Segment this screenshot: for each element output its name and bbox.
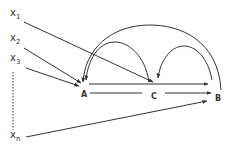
input-xn-subscript: n	[16, 135, 20, 143]
diagram-edges	[0, 0, 233, 150]
edge-xn-to-b	[26, 101, 207, 137]
input-label-xn: xn	[10, 130, 20, 140]
arc-b-to-c	[158, 46, 212, 80]
edge-x1-to-c	[24, 22, 153, 82]
arc-b-to-a	[83, 25, 221, 90]
input-x1-subscript: 1	[16, 13, 20, 21]
input-x3-subscript: 3	[16, 58, 20, 66]
input-label-x2: x2	[10, 33, 20, 43]
diagram-canvas: x1 x2 x3 xn A C B	[0, 0, 233, 150]
node-b: B	[215, 95, 221, 103]
edge-x2-to-a	[24, 48, 81, 83]
input-x2-subscript: 2	[16, 38, 20, 46]
input-label-x3: x3	[10, 53, 20, 63]
node-c: C	[151, 93, 157, 101]
node-a: A	[81, 91, 87, 99]
input-label-x1: x1	[10, 8, 20, 18]
